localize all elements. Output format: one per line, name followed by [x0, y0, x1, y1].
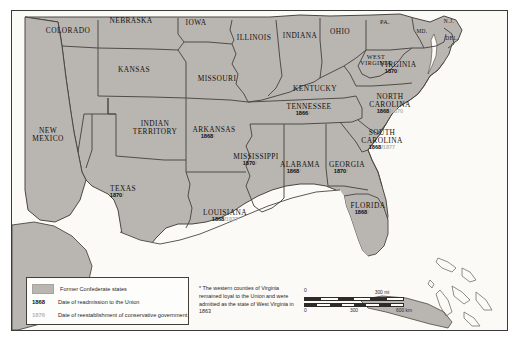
- state-name: INDIANTERRITORY: [133, 120, 178, 135]
- state-name: IOWA: [186, 19, 207, 27]
- state-label-colorado: COLORADO: [46, 27, 90, 35]
- state-name: PA.: [380, 19, 390, 25]
- map-footnote: * The western counties of Virginia remai…: [199, 285, 294, 316]
- state-label-florida: FLORIDA1868/1877: [351, 202, 386, 216]
- conservative-date: 1872: [348, 168, 360, 174]
- state-dates: 1868/1870: [369, 109, 410, 115]
- state-label-indian-territory: INDIANTERRITORY: [133, 120, 178, 135]
- state-label-georgia: GEORGIA1870/1872: [329, 161, 365, 175]
- readmission-date: 1868: [201, 133, 213, 139]
- scale-label-km-end: 600 km: [396, 308, 412, 313]
- state-label-texas: TEXAS1870/1873: [110, 185, 136, 199]
- state-name: MD.: [416, 29, 427, 35]
- state-dates: 1868/1874: [192, 134, 235, 140]
- state-name: OHIO: [330, 28, 350, 36]
- readmission-date: 1868: [369, 144, 381, 150]
- conservative-date: 1876: [257, 160, 269, 166]
- scale-label-miles: 300 mi: [375, 290, 390, 295]
- scale-label-km-mid: 300: [350, 308, 358, 313]
- readmission-date: 1868: [287, 168, 299, 174]
- state-dates: 1870/1869: [380, 69, 417, 75]
- readmission-date: 1868: [355, 209, 367, 215]
- conservative-date: 1874: [215, 133, 227, 139]
- state-name: INDIANA: [283, 32, 317, 40]
- state-label-tennessee: TENNESSEE1866/1869: [286, 103, 331, 117]
- conservative-date: 1869: [399, 68, 411, 74]
- state-name: NEBRASKA: [109, 17, 152, 25]
- state-label-del: DEL.: [445, 36, 458, 42]
- legend-confederate-label: Former Confederate states: [60, 286, 127, 292]
- legend-row-readmission: 1868 Date of readmission to the Union: [32, 295, 183, 308]
- state-label-iowa: IOWA: [186, 19, 207, 27]
- state-label-ohio: OHIO: [330, 28, 350, 36]
- state-name: SOUTHCAROLINA: [361, 129, 402, 144]
- state-label-alabama: ALABAMA1868/1874: [280, 161, 320, 175]
- state-name: NORTHCAROLINA: [369, 93, 410, 108]
- state-label-pa: PA.: [380, 19, 390, 25]
- conservative-date: 1870: [391, 108, 403, 114]
- state-dates: 1870/1873: [110, 193, 136, 199]
- scale-label-km-zero: 0: [304, 308, 307, 313]
- state-label-louisiana: LOUISIANA1868/1877: [203, 209, 247, 223]
- conservative-date: 1869: [310, 110, 322, 116]
- state-label-kentucky: KENTUCKY: [293, 85, 337, 93]
- readmission-date: 1870: [243, 160, 255, 166]
- readmission-date: 1868: [377, 108, 389, 114]
- state-label-kansas: KANSAS: [118, 66, 150, 74]
- state-dates: 1868/1877: [203, 217, 247, 223]
- state-dates: 1870/1876: [233, 161, 278, 167]
- reconstruction-map: COLORADONEBRASKAIOWAILLINOISINDIANAOHIOP…: [0, 0, 521, 342]
- confederate-swatch: [32, 284, 54, 294]
- state-name: KENTUCKY: [293, 85, 337, 93]
- state-label-illinois: ILLINOIS: [237, 34, 271, 42]
- legend-readmission-label: Date of readmission to the Union: [58, 299, 139, 305]
- map-legend: Former Confederate states 1868 Date of r…: [26, 277, 189, 325]
- state-name: COLORADO: [46, 27, 90, 35]
- scale-bar-miles: [304, 297, 404, 301]
- legend-readmission-date: 1868: [32, 299, 52, 305]
- conservative-date: 1877: [369, 209, 381, 215]
- state-name: ILLINOIS: [237, 34, 271, 42]
- readmission-date: 1866: [296, 110, 308, 116]
- state-dates: 1866/1869: [286, 111, 331, 117]
- legend-row-conservative: 1876 Date of reestablishment of conserva…: [32, 308, 183, 321]
- state-label-missouri: MISSOURI: [198, 75, 237, 83]
- state-dates: 1870/1872: [329, 169, 365, 175]
- conservative-date: 1877: [383, 144, 395, 150]
- map-scale-bar: 0 300 mi 0 300 600 km: [304, 288, 408, 314]
- legend-conservative-date: 1876: [32, 312, 52, 318]
- state-name: MISSOURI: [198, 75, 237, 83]
- state-label-north-carolina: NORTHCAROLINA1868/1870: [369, 93, 410, 114]
- state-label-arkansas: ARKANSAS1868/1874: [192, 126, 235, 140]
- scale-bar-km: [304, 303, 404, 307]
- state-name: NEWMEXICO: [32, 127, 64, 142]
- state-name: KANSAS: [118, 66, 150, 74]
- legend-conservative-label: Date of reestablishment of conservative …: [58, 312, 187, 318]
- state-name: N.J.: [444, 19, 454, 25]
- state-label-nebraska: NEBRASKA: [109, 17, 152, 25]
- state-dates: 1868/1874: [280, 169, 320, 175]
- state-label-virginia: VIRGINIA1870/1869: [380, 61, 417, 75]
- readmission-date: 1868: [212, 216, 224, 222]
- state-label-indiana: INDIANA: [283, 32, 317, 40]
- state-label-n-j: N.J.: [444, 19, 454, 25]
- legend-row-confederate: Former Confederate states: [32, 282, 183, 295]
- conservative-date: 1874: [301, 168, 313, 174]
- readmission-date: 1870: [385, 68, 397, 74]
- readmission-date: 1870: [334, 168, 346, 174]
- state-dates: 1868/1877: [361, 145, 402, 151]
- scale-label-mi-zero: 0: [304, 288, 307, 293]
- state-name: DEL.: [445, 36, 458, 42]
- readmission-date: 1870: [110, 192, 122, 198]
- conservative-date: 1873: [124, 192, 136, 198]
- state-dates: 1868/1877: [351, 210, 386, 216]
- conservative-date: 1877: [226, 216, 238, 222]
- state-label-mississippi: MISSISSIPPI1870/1876: [233, 153, 278, 167]
- state-label-new-mexico: NEWMEXICO: [32, 127, 64, 142]
- state-label-south-carolina: SOUTHCAROLINA1868/1877: [361, 129, 402, 150]
- state-label-md: MD.: [416, 29, 427, 35]
